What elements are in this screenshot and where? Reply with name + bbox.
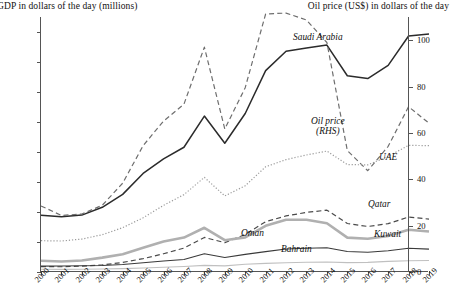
y-tick <box>37 242 41 243</box>
y2-tick <box>409 179 413 180</box>
series-path-oil <box>41 13 429 215</box>
y2-tick <box>409 133 413 134</box>
y2-tick-label: 40 <box>417 174 426 184</box>
y-tick <box>37 122 41 123</box>
right-axis-title: Oil price (US$) in dollars of the day <box>308 1 449 11</box>
series-path-saudi <box>41 34 429 217</box>
y2-tick-label: 80 <box>417 82 426 92</box>
series-label-kuwait: Kuwait <box>374 230 401 240</box>
chart-figure: GDP in dollars of the day (millions) Oil… <box>0 0 451 299</box>
y2-tick-label: 20 <box>417 221 426 231</box>
series-lines <box>41 17 429 272</box>
y2-tick <box>409 226 413 227</box>
right-axis-line: 100806040200 <box>408 17 409 272</box>
series-label-oil-price-line2: (RHS) <box>311 127 345 137</box>
y-tick <box>37 182 41 183</box>
y-tick <box>37 92 41 93</box>
y2-tick <box>409 40 413 41</box>
y-tick <box>37 32 41 33</box>
plot-area: Saudi Arabia Oil price (RHS) UAE Qatar K… <box>40 17 428 272</box>
series-label-bahrain: Bahrain <box>281 245 312 255</box>
series-label-oman: Oman <box>241 229 264 239</box>
y-tick <box>37 212 41 213</box>
y-tick <box>37 62 41 63</box>
series-label-uae: UAE <box>379 153 397 163</box>
series-label-saudi-arabia: Saudi Arabia <box>293 33 343 43</box>
y-tick <box>37 152 41 153</box>
y2-tick <box>409 87 413 88</box>
x-tick-label: 2000 <box>33 266 51 284</box>
series-label-oil-price: Oil price (RHS) <box>311 117 345 137</box>
y2-tick-label: 100 <box>417 35 430 45</box>
left-axis-title: GDP in dollars of the day (millions) <box>0 1 137 11</box>
y2-tick-label: 60 <box>417 128 426 138</box>
series-label-qatar: Qatar <box>368 200 390 210</box>
